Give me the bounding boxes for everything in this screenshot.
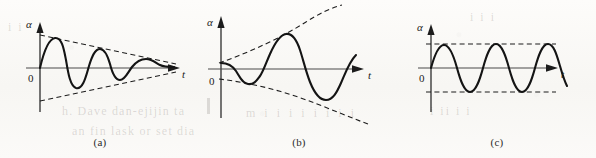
- panel-b-plot: α t 0: [196, 0, 402, 130]
- y-axis: [217, 16, 224, 118]
- origin-label: 0: [209, 75, 215, 87]
- x-axis-label: t: [182, 68, 186, 80]
- panel-c-plot: α t 0: [398, 0, 596, 130]
- panel-b-caption: (b): [196, 136, 402, 148]
- panel-a-caption: (a): [0, 136, 200, 148]
- panel-c-undamped-oscillation: α t 0 (c): [398, 0, 596, 158]
- x-axis: [26, 64, 180, 72]
- lower-envelope-dashed: [40, 72, 176, 101]
- origin-label: 0: [419, 72, 425, 84]
- x-axis: [418, 64, 558, 72]
- figure-root: h. Dave dan-ejijin ta an fin lask or set…: [0, 0, 596, 158]
- panel-c-caption: (c): [398, 136, 596, 148]
- growing-oscillation-curve: [221, 34, 356, 100]
- x-axis-label: t: [368, 69, 372, 81]
- panel-b-growing-oscillation: α t 0 (b): [196, 0, 402, 158]
- origin-label: 0: [28, 72, 34, 84]
- y-axis-label: α: [26, 18, 32, 30]
- y-axis-label: α: [417, 21, 423, 33]
- panel-a-damped-oscillation: α t 0 (a): [0, 0, 200, 158]
- upper-envelope-dashed: [219, 5, 342, 63]
- lower-envelope-dashed: [219, 79, 368, 124]
- y-axis-label: α: [207, 16, 213, 28]
- damped-oscillation-curve: [40, 38, 174, 88]
- panel-a-plot: α t 0: [0, 0, 200, 130]
